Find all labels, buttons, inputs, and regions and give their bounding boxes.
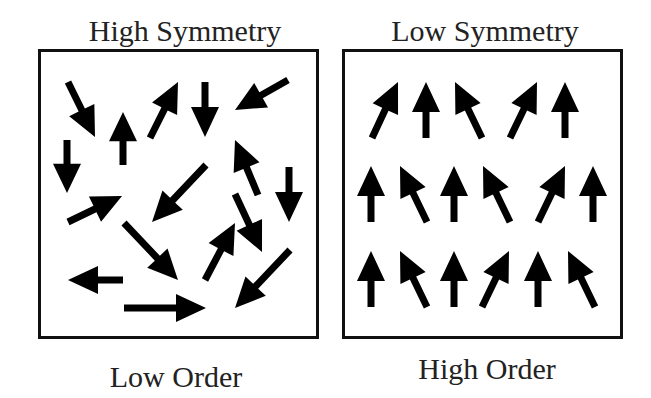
arrow-icon	[66, 196, 122, 225]
arrow-icon	[121, 221, 178, 280]
arrow-icon	[400, 251, 430, 309]
arrow-icon	[507, 82, 537, 140]
arrow-icon	[412, 82, 440, 138]
arrow-icon	[440, 251, 468, 307]
arrow-icon	[109, 112, 137, 165]
arrow-icon	[369, 82, 398, 139]
arrow-icon	[479, 251, 509, 309]
arrow-icon	[357, 251, 385, 307]
arrow-icon	[535, 166, 565, 224]
arrow-icon	[524, 251, 552, 307]
arrow-icon	[191, 82, 219, 137]
arrow-icon	[579, 166, 607, 222]
arrow-icon	[53, 140, 81, 193]
arrow-icon	[202, 223, 235, 282]
arrow-icon	[147, 82, 178, 140]
arrow-icon	[440, 166, 468, 222]
arrow-icon	[483, 166, 513, 224]
arrow-icon	[152, 163, 209, 222]
arrow-icon	[232, 193, 262, 252]
arrow-icon	[400, 166, 430, 224]
high-order-label: High Order	[418, 352, 555, 386]
arrow-icon	[65, 80, 95, 137]
arrow-icon	[235, 248, 293, 308]
low-order-label: Low Order	[110, 360, 242, 394]
arrow-icon	[275, 167, 303, 222]
arrow-icon	[568, 251, 598, 309]
arrows-layer	[0, 0, 651, 398]
arrow-icon	[455, 82, 485, 140]
arrow-icon	[235, 77, 290, 110]
arrow-icon	[68, 266, 123, 294]
arrow-icon	[234, 140, 262, 196]
arrow-icon	[124, 294, 206, 322]
arrow-icon	[357, 166, 385, 222]
arrow-icon	[551, 82, 579, 138]
